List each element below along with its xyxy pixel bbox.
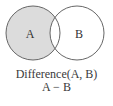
set-a-label: A bbox=[26, 27, 35, 41]
diagram-expression: A − B bbox=[0, 81, 113, 94]
venn-diagram: A B bbox=[0, 0, 113, 70]
set-b-label: B bbox=[75, 27, 83, 41]
